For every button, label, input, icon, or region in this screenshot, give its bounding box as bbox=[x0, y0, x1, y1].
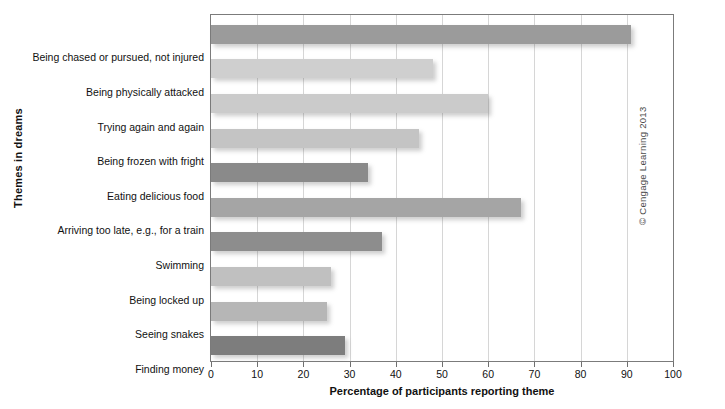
plot-area bbox=[210, 14, 674, 362]
bar-fill bbox=[211, 336, 345, 355]
category-label: Finding money bbox=[18, 363, 204, 375]
tick-label: 0 bbox=[208, 368, 214, 380]
gridline bbox=[534, 15, 535, 361]
tick-label: 40 bbox=[390, 368, 402, 380]
bar bbox=[211, 129, 419, 148]
gridline bbox=[488, 15, 489, 361]
bar-fill bbox=[211, 94, 488, 113]
tick-mark bbox=[303, 362, 304, 367]
category-label: Being chased or pursued, not injured bbox=[18, 51, 204, 63]
tick-mark bbox=[627, 362, 628, 367]
bar bbox=[211, 25, 631, 44]
tick-mark bbox=[488, 362, 489, 367]
tick-label: 20 bbox=[298, 368, 310, 380]
category-label: Eating delicious food bbox=[18, 190, 204, 202]
bar-fill bbox=[211, 232, 382, 251]
bar bbox=[211, 198, 521, 217]
tick-label: 80 bbox=[575, 368, 587, 380]
category-label: Seeing snakes bbox=[18, 328, 204, 340]
bar bbox=[211, 336, 345, 355]
gridline bbox=[442, 15, 443, 361]
tick-mark bbox=[257, 362, 258, 367]
category-label: Being frozen with fright bbox=[18, 155, 204, 167]
tick-mark bbox=[581, 362, 582, 367]
category-label: Arriving too late, e.g., for a train bbox=[18, 224, 204, 236]
x-axis-ticks: 0102030405060708090100 bbox=[210, 362, 674, 380]
bar-fill bbox=[211, 163, 368, 182]
tick-mark bbox=[534, 362, 535, 367]
bar-fill bbox=[211, 267, 331, 286]
gridline bbox=[627, 15, 628, 361]
tick-mark bbox=[211, 362, 212, 367]
bar bbox=[211, 59, 433, 78]
category-label: Being locked up bbox=[18, 294, 204, 306]
bar-fill bbox=[211, 59, 433, 78]
gridline bbox=[581, 15, 582, 361]
bar bbox=[211, 232, 382, 251]
tick-label: 10 bbox=[251, 368, 263, 380]
bar bbox=[211, 302, 327, 321]
tick-mark bbox=[673, 362, 674, 367]
x-axis-title: Percentage of participants reporting the… bbox=[210, 385, 674, 397]
category-label-list: Being chased or pursued, not injuredBein… bbox=[18, 24, 204, 362]
category-label: Being physically attacked bbox=[18, 86, 204, 98]
tick-label: 30 bbox=[344, 368, 356, 380]
tick-label: 70 bbox=[529, 368, 541, 380]
bar bbox=[211, 94, 488, 113]
category-label: Trying again and again bbox=[18, 121, 204, 133]
bar-fill bbox=[211, 302, 327, 321]
bar bbox=[211, 267, 331, 286]
bar-fill bbox=[211, 25, 631, 44]
tick-mark bbox=[442, 362, 443, 367]
tick-label: 60 bbox=[482, 368, 494, 380]
bar bbox=[211, 163, 368, 182]
bar-chart-figure: Themes in dreams Being chased or pursued… bbox=[0, 0, 725, 409]
tick-label: 100 bbox=[664, 368, 682, 380]
tick-label: 90 bbox=[621, 368, 633, 380]
tick-label: 50 bbox=[436, 368, 448, 380]
bar-fill bbox=[211, 198, 521, 217]
tick-mark bbox=[396, 362, 397, 367]
copyright-notice: © Cengage Learning 2013 bbox=[637, 75, 648, 225]
bar-fill bbox=[211, 129, 419, 148]
category-label: Swimming bbox=[18, 259, 204, 271]
tick-mark bbox=[350, 362, 351, 367]
